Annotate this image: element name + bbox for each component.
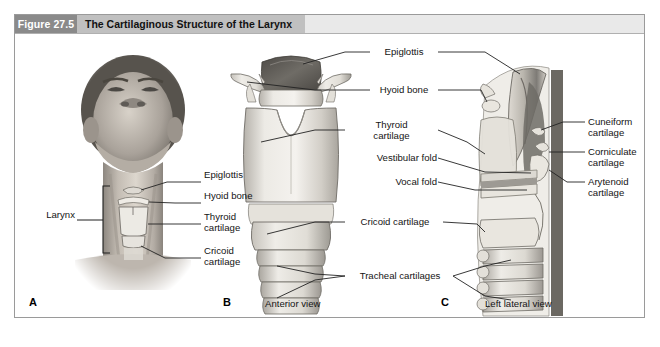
panel-letter-a: A [29, 296, 37, 308]
label-a-hyoid-bone: Hyoid bone [204, 190, 253, 201]
panel-letter-b: B [223, 296, 231, 308]
label-thyroid-cartilage: Thyroid cartilage [346, 119, 437, 141]
label-cricoid-cartilage: Cricoid cartilage [346, 216, 444, 227]
label-larynx: Larynx [19, 209, 75, 220]
label-epiglottis: Epiglottis [371, 46, 437, 57]
figure-frame: Figure 27.5 The Cartilaginous Structure … [14, 14, 645, 318]
panel-a-photograph [61, 55, 205, 292]
figure-header-bar: Figure 27.5 The Cartilaginous Structure … [15, 15, 644, 34]
label-vestibular-fold: Vestibular fold [327, 152, 437, 163]
label-a-cricoid-cartilage: Cricoid cartilage [204, 245, 240, 267]
label-hyoid-bone: Hyoid bone [371, 84, 437, 95]
label-a-thyroid-cartilage: Thyroid cartilage [204, 211, 240, 233]
label-a-epiglottis: Epiglottis [204, 169, 243, 180]
figure-number: Figure 27.5 [15, 15, 77, 33]
figure-title: The Cartilaginous Structure of the Laryn… [85, 15, 292, 33]
label-arytenoid-cartilage: Arytenoid cartilage [588, 176, 629, 198]
label-vocal-fold: Vocal fold [327, 176, 437, 187]
panel-c-lateral-view [477, 66, 563, 316]
panel-letter-c: C [441, 296, 449, 308]
label-corniculate-cartilage: Corniculate cartilage [588, 146, 637, 168]
label-tracheal-cartilages: Tracheal cartilages [346, 270, 454, 281]
label-cuneiform-cartilage: Cuneiform cartilage [588, 116, 632, 138]
panel-b-view-caption: Anterior view [265, 298, 320, 309]
figure-plate: Larynx Epiglottis Hyoid bone Thyroid car… [15, 34, 644, 317]
panel-c-view-caption: Left lateral view [485, 298, 552, 309]
